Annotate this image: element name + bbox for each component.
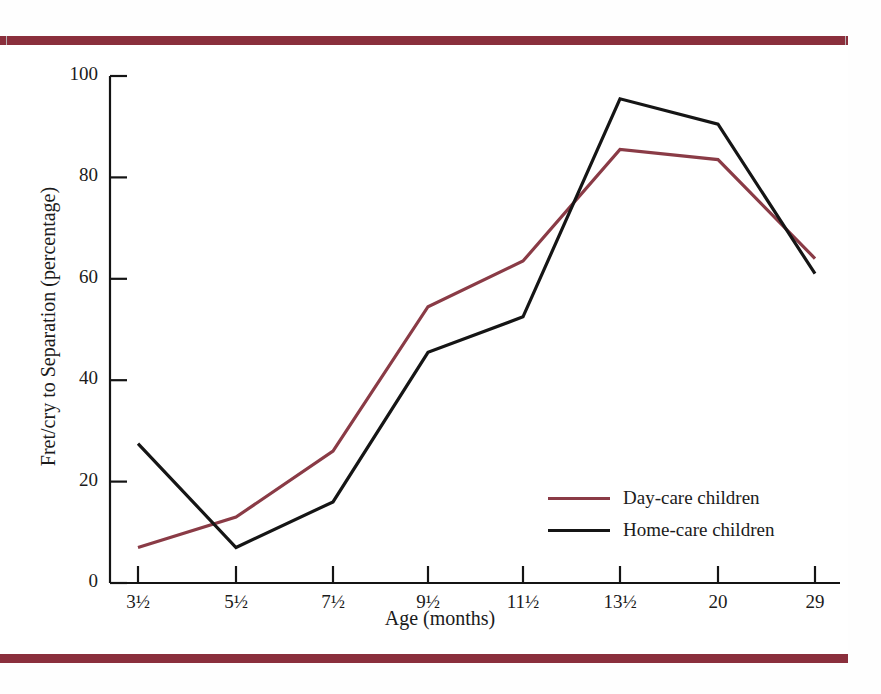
- legend-item-home-care: Home-care children: [548, 514, 774, 546]
- chart-legend: Day-care children Home-care children: [548, 482, 774, 546]
- legend-label-home-care: Home-care children: [623, 519, 774, 541]
- y-tick-label: 0: [52, 570, 98, 592]
- figure-page: Fret/cry to Separation (percentage) Age …: [0, 0, 881, 694]
- line-chart-figure: Fret/cry to Separation (percentage) Age …: [0, 45, 848, 654]
- page-rule-bottom: [0, 654, 848, 663]
- x-tick-label: 13½: [585, 591, 655, 613]
- x-tick-label: 11½: [488, 591, 558, 613]
- y-tick-label: 60: [52, 266, 98, 288]
- x-tick-label: 7½: [298, 591, 368, 613]
- y-tick-label: 100: [52, 63, 98, 85]
- x-tick-label: 9½: [393, 591, 463, 613]
- y-tick-label: 80: [52, 164, 98, 186]
- x-tick-label: 29: [780, 591, 850, 613]
- chart-plot-area: [0, 45, 848, 654]
- x-tick-label: 3½: [103, 591, 173, 613]
- page-rule-top: [0, 36, 848, 45]
- legend-line-swatch-day-care: [548, 497, 610, 500]
- legend-label-day-care: Day-care children: [623, 487, 760, 509]
- legend-line-swatch-home-care: [548, 529, 610, 532]
- y-tick-label: 40: [52, 367, 98, 389]
- legend-item-day-care: Day-care children: [548, 482, 774, 514]
- x-tick-label: 5½: [201, 591, 271, 613]
- x-tick-label: 20: [683, 591, 753, 613]
- y-tick-label: 20: [52, 469, 98, 491]
